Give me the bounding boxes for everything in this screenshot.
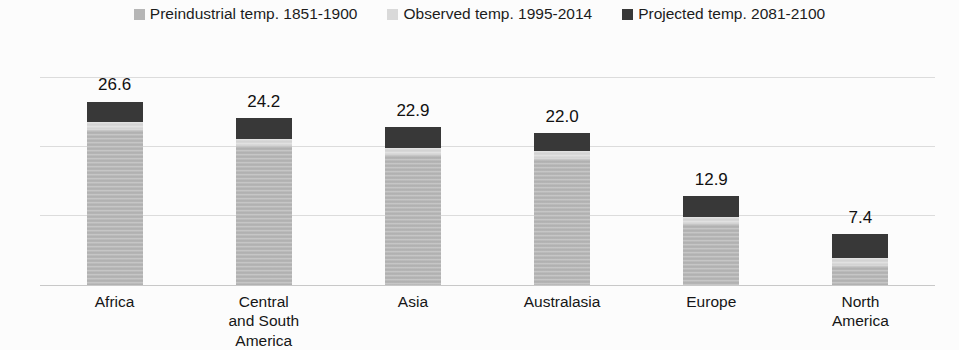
plot-area: 26.6Africa24.2Central and South America2…	[40, 78, 935, 286]
bar-segment-preindustrial	[236, 146, 292, 285]
bar-segment-preindustrial	[832, 266, 888, 285]
legend-item-preindustrial: Preindustrial temp. 1851-1900	[134, 5, 358, 23]
legend-swatch-projected-icon	[622, 9, 633, 20]
bar-stack	[534, 133, 590, 285]
x-axis-label: Australasia	[524, 292, 601, 311]
bar-total-label: 24.2	[247, 92, 280, 112]
bar-column-africa: 26.6Africa	[40, 78, 189, 285]
bar-total-label: 22.9	[396, 101, 429, 121]
x-axis-label: Central and South America	[226, 292, 301, 350]
chart-legend: Preindustrial temp. 1851-1900 Observed t…	[0, 5, 959, 23]
bar-stack	[385, 127, 441, 285]
bar-segment-observed	[832, 258, 888, 266]
bar-segment-preindustrial	[683, 224, 739, 285]
bar-segment-observed	[236, 139, 292, 146]
x-axis-label: North America	[823, 292, 898, 331]
bar-segment-preindustrial	[534, 159, 590, 285]
bar-total-label: 26.6	[98, 75, 131, 95]
bar-segment-projected	[832, 234, 888, 258]
bar-stack	[832, 234, 888, 285]
bar-segment-preindustrial	[385, 155, 441, 285]
legend-label-preindustrial: Preindustrial temp. 1851-1900	[150, 5, 358, 23]
bar-segment-observed	[534, 151, 590, 159]
bar-segment-observed	[385, 148, 441, 155]
x-axis-label: Africa	[95, 292, 135, 311]
legend-item-observed: Observed temp. 1995-2014	[387, 5, 592, 23]
bar-total-label: 22.0	[546, 107, 579, 127]
bar-stack	[683, 196, 739, 285]
legend-swatch-preindustrial-icon	[134, 9, 145, 20]
legend-swatch-observed-icon	[387, 9, 398, 20]
bar-segment-observed	[87, 122, 143, 130]
bar-segment-projected	[385, 127, 441, 148]
bar-segment-projected	[534, 133, 590, 151]
bar-column-asia: 22.9Asia	[338, 78, 487, 285]
bar-segment-observed	[683, 217, 739, 225]
bar-column-australasia: 22.0Australasia	[488, 78, 637, 285]
bars-row: 26.6Africa24.2Central and South America2…	[40, 78, 935, 285]
x-axis-label: Europe	[686, 292, 736, 311]
x-axis-label: Asia	[398, 292, 428, 311]
bar-column-central-and-south-america: 24.2Central and South America	[189, 78, 338, 285]
bar-column-europe: 12.9Europe	[637, 78, 786, 285]
bar-stack	[87, 102, 143, 286]
legend-label-projected: Projected temp. 2081-2100	[638, 5, 825, 23]
bar-stack	[236, 118, 292, 285]
bar-total-label: 12.9	[695, 170, 728, 190]
bar-segment-projected	[683, 196, 739, 217]
bar-segment-preindustrial	[87, 130, 143, 285]
bar-column-north-america: 7.4North America	[786, 78, 935, 285]
legend-item-projected: Projected temp. 2081-2100	[622, 5, 825, 23]
regional-temperature-stacked-bar-chart: Preindustrial temp. 1851-1900 Observed t…	[0, 0, 959, 350]
bar-total-label: 7.4	[849, 208, 873, 228]
bar-segment-projected	[236, 118, 292, 139]
bar-segment-projected	[87, 102, 143, 123]
legend-label-observed: Observed temp. 1995-2014	[403, 5, 592, 23]
